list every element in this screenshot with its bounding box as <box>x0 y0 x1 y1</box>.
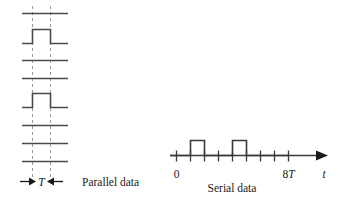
serial-axis-label: t <box>322 168 326 180</box>
diagram-canvas: T Parallel data 0 8T t Serial data <box>0 0 357 202</box>
serial-waveform-group <box>170 141 289 156</box>
serial-end-label-symbol: T <box>288 168 296 180</box>
parallel-channel-4-trace <box>22 94 68 108</box>
parallel-data-caption: Parallel data <box>82 176 139 188</box>
serial-data-trace <box>170 141 289 156</box>
period-arrow-left-head-icon <box>29 178 36 186</box>
period-dimension-group: T <box>20 176 63 188</box>
serial-axis-arrow-head-icon <box>316 151 328 161</box>
serial-end-label: 8T <box>282 168 296 180</box>
parallel-channel-1-trace <box>22 30 68 44</box>
period-arrow-right-head-icon <box>47 178 54 186</box>
serial-origin-label: 0 <box>174 168 180 180</box>
parallel-waveform-group <box>22 14 68 162</box>
period-label: T <box>38 176 46 188</box>
timing-diagram-figure: T Parallel data 0 8T t Serial data <box>0 0 357 202</box>
serial-data-caption: Serial data <box>208 182 257 194</box>
